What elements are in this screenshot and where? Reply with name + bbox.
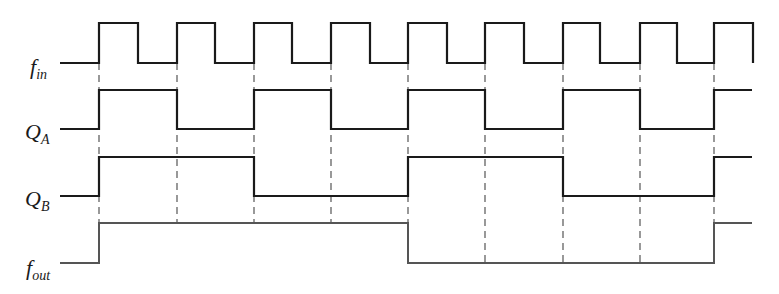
qa-label-main: Q <box>25 119 41 144</box>
qa-label-sub: A <box>41 132 50 147</box>
qb-label-sub: B <box>41 199 50 214</box>
qb-label-main: Q <box>25 186 41 211</box>
dashed-guide-lines <box>99 63 714 263</box>
qa-waveform <box>60 90 752 129</box>
fout-label: fout <box>26 257 50 283</box>
fout-waveform <box>60 223 752 263</box>
qb-label: QB <box>25 188 49 214</box>
fin-waveform <box>60 23 753 63</box>
fin-label: fin <box>30 56 47 82</box>
fin-label-sub: in <box>36 67 47 82</box>
qb-waveform <box>60 157 752 196</box>
timing-diagram <box>0 0 779 294</box>
qa-label: QA <box>25 121 49 147</box>
fout-label-sub: out <box>32 268 50 283</box>
